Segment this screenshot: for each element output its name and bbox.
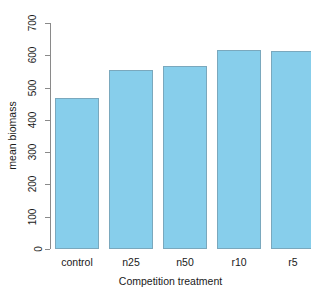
bar <box>271 51 311 249</box>
x-axis-title: Competition treatment <box>0 275 311 287</box>
y-axis-tick-label: 600 <box>0 50 42 60</box>
y-axis-tick-label-text: 400 <box>29 112 39 129</box>
y-axis-tick-label-text: 600 <box>29 47 39 64</box>
plot-area <box>51 23 309 249</box>
bar <box>163 66 207 249</box>
x-axis-tick-label: r10 <box>217 256 261 268</box>
x-axis-tick-label: n25 <box>109 256 153 268</box>
x-axis-tick-label: control <box>55 256 99 268</box>
y-axis-tick-label-text: 100 <box>29 208 39 225</box>
y-axis-tick <box>45 88 50 89</box>
y-axis-tick <box>45 23 50 24</box>
x-axis-title-text: Competition treatment <box>119 275 222 287</box>
bar <box>217 50 261 249</box>
y-axis-tick-label-text: 700 <box>29 15 39 32</box>
y-axis-tick-label: 0 <box>0 244 42 254</box>
y-axis-tick <box>45 217 50 218</box>
y-axis-title: mean biomass <box>7 86 18 186</box>
y-axis-tick-label: 100 <box>0 212 42 222</box>
bar <box>109 70 153 249</box>
y-axis-tick-label-text: 500 <box>29 79 39 96</box>
y-axis-tick <box>45 184 50 185</box>
x-axis-tick-label: n50 <box>163 256 207 268</box>
barplot-chart: 0100200300400500600700 mean biomass cont… <box>0 0 311 303</box>
y-axis-tick-label: 700 <box>0 18 42 28</box>
y-axis-tick-label-text: 0 <box>34 246 44 252</box>
y-axis-tick-label-text: 200 <box>29 176 39 193</box>
y-axis-tick-label-text: 300 <box>29 144 39 161</box>
y-axis-tick <box>45 152 50 153</box>
y-axis-tick <box>45 55 50 56</box>
bar <box>55 98 99 249</box>
y-axis-tick <box>45 249 50 250</box>
y-axis-tick <box>45 120 50 121</box>
x-axis-tick-label: r5 <box>271 256 311 268</box>
